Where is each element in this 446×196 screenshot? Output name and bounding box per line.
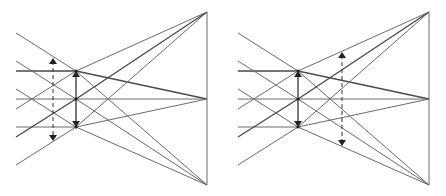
ray-to-top-apex-1 <box>16 12 207 109</box>
node-dot <box>296 69 299 72</box>
ray-to-top-apex-2 <box>16 12 207 137</box>
panel-left <box>16 12 207 185</box>
ray-to-top-apex-2 <box>238 12 429 137</box>
node-dot <box>74 97 77 100</box>
ray-to-bottom-apex-2 <box>16 61 207 185</box>
node-dot <box>296 125 299 128</box>
node-dot <box>74 125 77 128</box>
panel-right <box>238 12 429 185</box>
perspective-lines-diagram <box>0 0 446 196</box>
ray-to-bottom-apex-3 <box>16 89 207 185</box>
ray-to-top-apex-3 <box>238 12 429 165</box>
node-dot <box>296 97 299 100</box>
ray-to-bottom-apex-2 <box>238 61 429 185</box>
ray-to-top-apex-1 <box>238 12 429 109</box>
ray-to-bottom-apex-1 <box>16 33 207 185</box>
ray-to-top-apex-3 <box>16 12 207 165</box>
diagram-stage <box>0 0 446 196</box>
node-dot <box>74 69 77 72</box>
ray-to-bottom-apex-1 <box>238 33 429 185</box>
ray-to-bottom-apex-3 <box>238 89 429 185</box>
